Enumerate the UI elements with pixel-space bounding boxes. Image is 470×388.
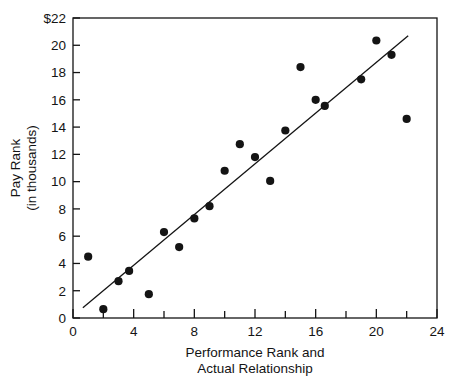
plot-canvas: 02468101214161820$22 04812162024 Pay Ran…: [0, 0, 470, 388]
data-point: [266, 177, 274, 185]
data-point: [190, 214, 198, 222]
x-axis-title-line2: Actual Relationship: [197, 361, 313, 376]
data-point: [160, 228, 168, 236]
data-point: [145, 290, 153, 298]
data-point: [296, 63, 304, 71]
y-tick-label: 10: [51, 174, 66, 189]
data-point: [357, 75, 365, 83]
data-point: [99, 305, 107, 313]
y-tick-label: 0: [58, 311, 66, 326]
data-point: [84, 253, 92, 261]
data-point: [372, 36, 380, 44]
y-axis-title: Pay Rank (in thousands): [8, 125, 39, 211]
x-axis-title-line1: Performance Rank and: [186, 345, 325, 360]
y-axis-title-line2: (in thousands): [24, 125, 39, 211]
x-tick-label: 16: [308, 324, 323, 339]
data-point: [236, 140, 244, 148]
x-tick-label: 8: [191, 324, 199, 339]
data-point: [205, 202, 213, 210]
scatter-plot-figure: 02468101214161820$22 04812162024 Pay Ran…: [0, 0, 470, 388]
y-tick-label: 18: [51, 65, 66, 80]
y-axis-ticks: [73, 18, 80, 318]
x-tick-label: 4: [130, 324, 138, 339]
data-point: [403, 115, 411, 123]
y-tick-label: 2: [58, 284, 66, 299]
y-tick-label: 14: [51, 120, 67, 135]
y-tick-label: 8: [58, 202, 66, 217]
data-point: [114, 277, 122, 285]
x-tick-label: 24: [429, 324, 445, 339]
y-axis-title-line1: Pay Rank: [8, 138, 23, 197]
data-points: [84, 36, 411, 313]
data-point: [312, 96, 320, 104]
data-point: [281, 126, 289, 134]
x-tick-label: 0: [69, 324, 77, 339]
data-point: [125, 267, 133, 275]
y-axis-tick-labels: 02468101214161820$22: [43, 11, 66, 326]
data-point: [175, 243, 183, 251]
y-tick-label: 20: [51, 38, 66, 53]
y-tick-label: 16: [51, 93, 66, 108]
y-tick-label: 6: [58, 229, 66, 244]
x-axis-ticks: [73, 309, 437, 318]
y-tick-label: 12: [51, 147, 66, 162]
data-point: [321, 102, 329, 110]
x-tick-label: 12: [247, 324, 262, 339]
data-point: [387, 51, 395, 59]
y-tick-label: $22: [43, 11, 66, 26]
x-axis-tick-labels: 04812162024: [69, 324, 445, 339]
x-tick-label: 20: [369, 324, 384, 339]
data-point: [251, 153, 259, 161]
y-tick-label: 4: [58, 256, 66, 271]
x-axis-title: Performance Rank and Actual Relationship: [186, 345, 325, 376]
data-point: [221, 167, 229, 175]
